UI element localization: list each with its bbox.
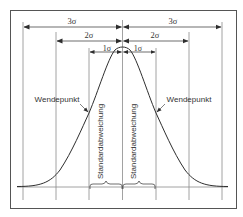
- label-left-3sigma: 3σ: [68, 16, 77, 26]
- label-inflection-left: Wendepunkt: [35, 95, 81, 104]
- label-left-2sigma: 2σ: [85, 30, 94, 40]
- label-left-1sigma: 1σ: [103, 44, 112, 53]
- bracket-left: [90, 181, 122, 189]
- bracket-right: [123, 181, 155, 189]
- label-right-2sigma: 2σ: [151, 30, 160, 40]
- diagram-frame: [11, 11, 237, 209]
- label-right-3sigma: 3σ: [169, 16, 178, 26]
- pointer-inflection-right: [157, 104, 165, 112]
- label-inflection-right: Wendepunkt: [167, 95, 213, 104]
- pointer-inflection-left: [80, 104, 88, 112]
- normal-distribution-diagram: 3σ 3σ 2σ 2σ 1σ 1σ Wendepunkt Wendepunkt …: [0, 0, 243, 217]
- label-right-1sigma: 1σ: [134, 44, 143, 53]
- label-stddev-left: Standardabweichung: [96, 104, 105, 179]
- label-stddev-right: Standardabweichung: [129, 104, 138, 179]
